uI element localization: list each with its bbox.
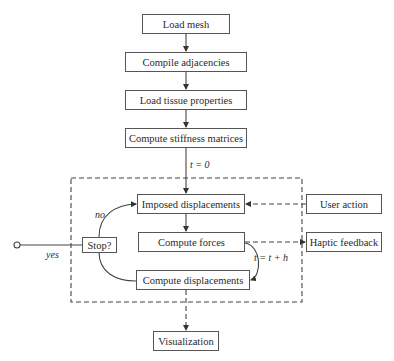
compile-adjacencies-box: Compile adjacencies — [125, 52, 247, 72]
compute-forces-box: Compute forces — [138, 232, 245, 252]
stop-decision-box: Stop? — [82, 237, 117, 253]
user-action-box: User action — [306, 194, 382, 214]
yes-label: yes — [46, 249, 59, 260]
compute-stiffness-matrices-box: Compute stiffness matrices — [125, 128, 247, 148]
load-mesh-box: Load mesh — [142, 14, 230, 34]
t-zero-label: t = 0 — [190, 159, 210, 170]
visualization-box: Visualization — [153, 331, 219, 351]
no-label: no — [95, 209, 105, 220]
increment-label: t = t + h — [254, 252, 288, 263]
load-tissue-properties-box: Load tissue properties — [125, 90, 247, 110]
haptic-feedback-box: Haptic feedback — [306, 232, 382, 252]
compute-displacements-box: Compute displacements — [136, 270, 250, 290]
imposed-displacements-box: Imposed displacements — [137, 194, 245, 214]
